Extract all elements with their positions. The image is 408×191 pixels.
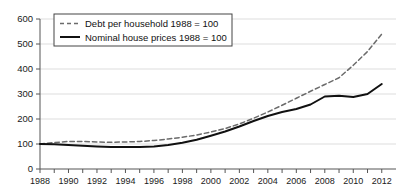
x-tick-label: 1988 bbox=[30, 176, 50, 186]
y-axis-ticks bbox=[36, 19, 40, 169]
y-tick-label: 600 bbox=[17, 13, 33, 24]
series-line-house-prices bbox=[40, 84, 382, 147]
y-axis-labels: 0100200300400500600 bbox=[17, 13, 33, 174]
x-tick-label: 1996 bbox=[144, 176, 164, 186]
y-tick-label: 300 bbox=[17, 88, 33, 99]
x-tick-label: 2002 bbox=[229, 176, 249, 186]
y-tick-label: 100 bbox=[17, 138, 33, 149]
x-tick-label: 2004 bbox=[258, 176, 278, 186]
x-tick-label: 1994 bbox=[115, 176, 135, 186]
chart-canvas: 0100200300400500600 19881990199219941996… bbox=[0, 0, 408, 191]
line-chart: 0100200300400500600 19881990199219941996… bbox=[0, 0, 408, 191]
x-tick-label: 2000 bbox=[201, 176, 221, 186]
x-tick-label: 1992 bbox=[87, 176, 107, 186]
x-axis-labels: 1988199019921994199619982000200220042006… bbox=[30, 176, 392, 186]
x-tick-label: 2012 bbox=[372, 176, 392, 186]
x-tick-label: 2006 bbox=[286, 176, 306, 186]
x-tick-label: 2010 bbox=[343, 176, 363, 186]
y-tick-label: 200 bbox=[17, 113, 33, 124]
legend-label-house-prices: Nominal house prices 1988 = 100 bbox=[85, 32, 227, 43]
x-tick-label: 2008 bbox=[315, 176, 335, 186]
y-tick-label: 0 bbox=[28, 163, 33, 174]
y-tick-label: 400 bbox=[17, 63, 33, 74]
series-line-debt bbox=[40, 34, 382, 144]
y-tick-label: 500 bbox=[17, 38, 33, 49]
chart-legend: Debt per household 1988 = 100 Nominal ho… bbox=[54, 14, 232, 46]
x-axis-ticks bbox=[40, 169, 382, 173]
data-series-group bbox=[40, 34, 382, 147]
x-tick-label: 1998 bbox=[172, 176, 192, 186]
legend-label-debt: Debt per household 1988 = 100 bbox=[85, 18, 218, 29]
x-tick-label: 1990 bbox=[58, 176, 78, 186]
